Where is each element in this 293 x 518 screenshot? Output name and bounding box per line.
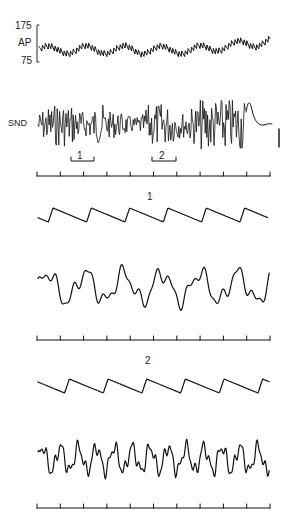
segment-marker-2-bracket (152, 157, 176, 161)
time-axis-overview (37, 172, 270, 176)
figure: 175 AP 75 SND 1 2 1 2 (0, 0, 293, 518)
time-axis-expanded-2 (37, 504, 270, 508)
snd-overview-trace (38, 100, 245, 149)
expanded-snd-trace-1 (38, 265, 269, 311)
ap-overview-trace (39, 36, 270, 57)
snd-tail-trace (246, 103, 272, 125)
expanded-snd-trace-2 (38, 439, 269, 479)
expanded-ap-trace-2 (38, 379, 269, 393)
time-axis-expanded-1 (37, 336, 270, 340)
expanded-ap-trace-1 (38, 208, 268, 222)
ap-scale-bracket (37, 25, 39, 62)
segment-marker-1-bracket (71, 157, 94, 161)
traces-canvas (0, 0, 293, 518)
